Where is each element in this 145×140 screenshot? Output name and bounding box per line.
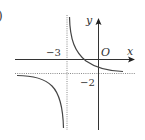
x-axis-label: x bbox=[127, 45, 134, 58]
hyperbola-upper-branch bbox=[70, 17, 124, 72]
panel-label: ) bbox=[0, 9, 3, 23]
horizontal-asymptote-label: −2 bbox=[80, 77, 95, 88]
origin-label: O bbox=[101, 46, 110, 59]
y-axis-label: y bbox=[85, 14, 93, 27]
hyperbola-diagram: ) y x O −3 −2 bbox=[0, 0, 145, 140]
hyperbola-lower-branch bbox=[17, 76, 64, 129]
vertical-asymptote-label: −3 bbox=[46, 47, 61, 58]
